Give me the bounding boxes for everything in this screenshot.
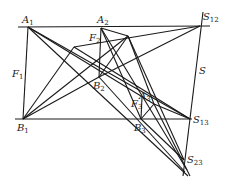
svg-text:S12: S12 [203,11,219,24]
label-s12: S12 [203,11,219,24]
label-s23: S23 [187,154,203,167]
svg-text:B3: B3 [133,122,146,135]
label-s13: S13 [193,114,209,127]
svg-text:S13: S13 [193,114,209,127]
label-a2: A2 [96,14,109,27]
line-b1-s12-lower [23,77,99,119]
diagram-canvas: A1 A2 A3 B1 B2 B3 F1 F2 F3 S S12 S13 S23 [0,0,228,192]
svg-text:A3: A3 [138,90,151,103]
svg-text:A1: A1 [21,14,34,27]
line-a1-s23 [28,27,188,176]
svg-text:F1: F1 [11,68,23,81]
svg-text:B1: B1 [16,122,29,135]
svg-text:F2: F2 [88,32,100,45]
label-a1: A1 [21,14,34,27]
label-f2: F2 [88,32,100,45]
svg-text:S23: S23 [187,154,203,167]
line-b2-s12 [99,26,200,77]
label-f1: F1 [11,68,23,81]
label-b3: B3 [133,122,146,135]
line-s [183,12,203,176]
svg-text:S: S [199,65,206,76]
line-b3-s23 [141,119,184,160]
line-b1-q [23,47,74,119]
label-s: S [199,65,206,76]
label-b1: B1 [16,122,29,135]
line-a3-s23 [154,104,190,176]
segment-f2 [99,28,101,77]
line-top [18,26,210,27]
line-a3-s13 [154,104,190,119]
label-a3: A3 [138,90,151,103]
segment-f1 [23,27,28,119]
svg-text:A2: A2 [96,14,109,27]
